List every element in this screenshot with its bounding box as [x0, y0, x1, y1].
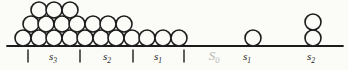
- section-label: s1: [243, 50, 251, 65]
- pile-middle-row-circle: [100, 16, 116, 32]
- section-label: s3: [49, 50, 57, 65]
- stacked-pair-top-circle: [305, 14, 321, 30]
- pile-bottom-row-circle: [139, 30, 155, 46]
- pile-bottom-row-circle: [171, 30, 187, 46]
- single-ball-circle: [245, 30, 261, 46]
- circle-pile-diagram: s3s2s1S0s1s2: [0, 0, 348, 70]
- section-label-muted: S0: [209, 48, 221, 65]
- figure-canvas: s3s2s1S0s1s2: [0, 0, 348, 70]
- section-label: s1: [154, 50, 162, 65]
- pile-middle-row-circle: [116, 16, 132, 32]
- pile-top-row-circle: [31, 2, 47, 18]
- pile-top-row-circle: [62, 2, 78, 18]
- pile-middle-row-circle: [85, 16, 101, 32]
- pile-bottom-row-circle: [155, 30, 171, 46]
- stacked-pair-bottom-circle: [305, 30, 321, 46]
- pile-top-row-circle: [46, 2, 62, 18]
- section-label: s2: [103, 50, 111, 65]
- section-label: s2: [307, 50, 315, 65]
